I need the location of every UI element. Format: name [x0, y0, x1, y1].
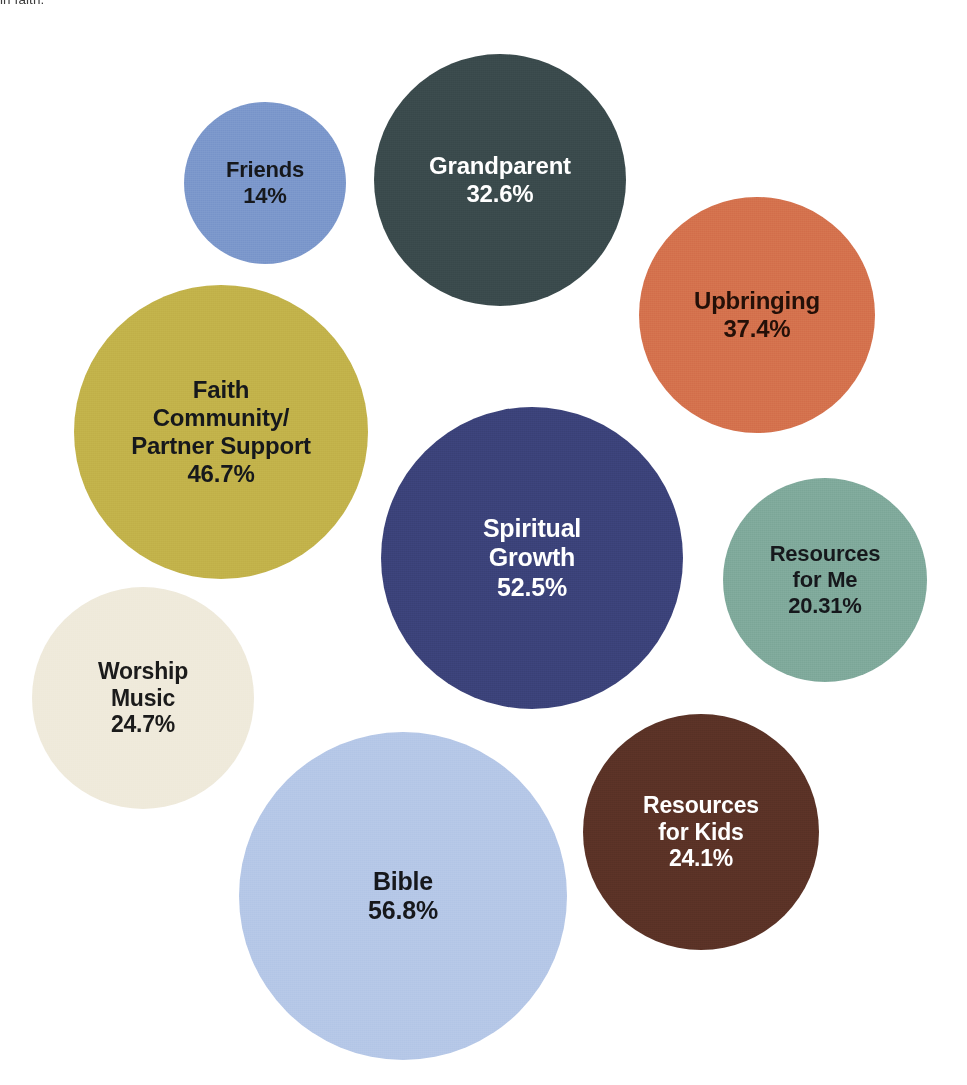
bubble-resources-for-kids[interactable]: Resources for Kids24.1%	[583, 714, 819, 950]
bubble-faith-community-partner-support[interactable]: Faith Community/ Partner Support46.7%	[74, 285, 368, 579]
bubble-text-group: Faith Community/ Partner Support46.7%	[131, 376, 311, 488]
bubble-text-group: Resources for Kids24.1%	[643, 792, 759, 873]
bubble-value: 46.7%	[131, 460, 311, 488]
bubble-value: 52.5%	[483, 573, 581, 602]
bubble-label: Faith Community/ Partner Support	[131, 376, 311, 460]
bubble-text-group: Resources for Me20.31%	[770, 541, 881, 618]
bubble-friends[interactable]: Friends14%	[184, 102, 346, 264]
bubble-value: 37.4%	[694, 315, 820, 343]
bubble-text-group: Bible56.8%	[368, 867, 438, 926]
bubble-text-group: Friends14%	[226, 157, 304, 208]
bubble-label: Resources for Kids	[643, 792, 759, 846]
bubble-chart-canvas: in faith. Bible56.8%Spiritual Growth52.5…	[0, 0, 967, 1085]
bubble-value: 14%	[226, 183, 304, 209]
bubble-bible[interactable]: Bible56.8%	[239, 732, 567, 1060]
bubble-value: 56.8%	[368, 896, 438, 925]
bubble-value: 32.6%	[429, 180, 571, 208]
bubble-value: 20.31%	[770, 593, 881, 619]
clipped-caption-text: in faith.	[0, 0, 200, 9]
bubble-text-group: Spiritual Growth52.5%	[483, 514, 581, 602]
bubble-label: Resources for Me	[770, 541, 881, 592]
bubble-text-group: Grandparent32.6%	[429, 152, 571, 208]
bubble-text-group: Upbringing37.4%	[694, 287, 820, 343]
bubble-worship-music[interactable]: Worship Music24.7%	[32, 587, 254, 809]
bubble-label: Spiritual Growth	[483, 514, 581, 573]
bubble-spiritual-growth[interactable]: Spiritual Growth52.5%	[381, 407, 683, 709]
bubble-text-group: Worship Music24.7%	[98, 658, 188, 739]
bubble-value: 24.7%	[98, 711, 188, 738]
bubble-label: Upbringing	[694, 287, 820, 315]
bubble-grandparent[interactable]: Grandparent32.6%	[374, 54, 626, 306]
bubble-label: Worship Music	[98, 658, 188, 712]
bubble-label: Bible	[368, 867, 438, 896]
bubble-label: Friends	[226, 157, 304, 183]
bubble-upbringing[interactable]: Upbringing37.4%	[639, 197, 875, 433]
bubble-resources-for-me[interactable]: Resources for Me20.31%	[723, 478, 927, 682]
bubble-value: 24.1%	[643, 845, 759, 872]
bubble-label: Grandparent	[429, 152, 571, 180]
